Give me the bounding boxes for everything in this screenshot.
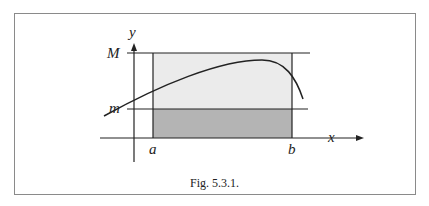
lower-rectangle — [153, 109, 292, 138]
x-axis-arrow-icon — [356, 135, 364, 141]
left-endpoint-label: a — [149, 142, 157, 157]
right-endpoint-label: b — [288, 142, 296, 157]
y-axis-arrow-icon — [131, 43, 137, 51]
x-axis-label: x — [328, 130, 335, 145]
lower-bound-label: m — [109, 101, 120, 116]
upper-bound-label: M — [107, 46, 120, 61]
figure-caption: Fig. 5.3.1. — [0, 176, 429, 191]
y-axis-label: y — [129, 25, 136, 40]
